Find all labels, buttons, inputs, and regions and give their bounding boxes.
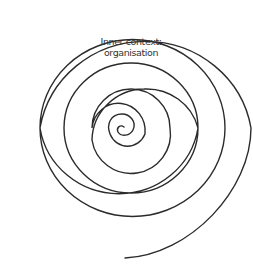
spiral-line xyxy=(40,40,251,258)
label-line-1: Inner context: xyxy=(86,36,176,47)
inner-context-label: Inner context: organisation xyxy=(86,36,176,58)
spiral-diagram: Inner context: organisation xyxy=(0,0,253,267)
label-line-2: organisation xyxy=(86,47,176,58)
